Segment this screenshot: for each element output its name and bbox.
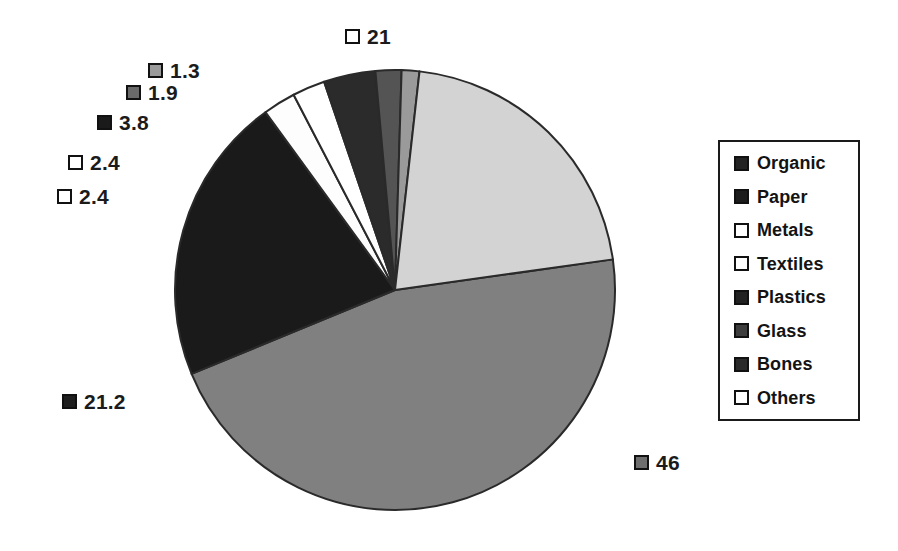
legend-item-paper[interactable]: Paper xyxy=(734,185,858,209)
data-label-glass: 1.9 xyxy=(126,82,178,103)
data-label-value: 2.4 xyxy=(79,186,109,207)
legend-item-label: Organic xyxy=(757,154,826,172)
legend-item-others[interactable]: Others xyxy=(734,386,858,410)
legend-swatch-icon xyxy=(734,189,749,204)
data-label-swatch-icon xyxy=(126,85,141,100)
data-label-bones: 1.3 xyxy=(148,60,200,81)
legend-swatch-icon xyxy=(734,156,749,171)
legend-swatch-icon xyxy=(734,357,749,372)
legend-item-label: Paper xyxy=(757,188,808,206)
data-label-swatch-icon xyxy=(57,189,72,204)
legend-item-label: Plastics xyxy=(757,288,826,306)
data-label-value: 46 xyxy=(656,452,680,473)
legend-item-label: Metals xyxy=(757,221,814,239)
legend-item-organic[interactable]: Organic xyxy=(734,151,858,175)
data-label-metals: 2.4 xyxy=(68,152,120,173)
data-label-plastics: 3.8 xyxy=(97,112,149,133)
legend-swatch-icon xyxy=(734,290,749,305)
legend-box: OrganicPaperMetalsTextilesPlasticsGlassB… xyxy=(718,140,860,421)
data-label-others: 21 xyxy=(345,26,391,47)
legend-swatch-icon xyxy=(734,256,749,271)
legend-swatch-icon xyxy=(734,390,749,405)
pie-slice-group xyxy=(175,70,615,510)
legend-item-label: Textiles xyxy=(757,255,824,273)
data-label-value: 21 xyxy=(367,26,391,47)
data-label-organic: 46 xyxy=(634,452,680,473)
legend-item-metals[interactable]: Metals xyxy=(734,218,858,242)
data-label-swatch-icon xyxy=(68,155,83,170)
data-label-swatch-icon xyxy=(148,63,163,78)
data-label-value: 3.8 xyxy=(119,112,149,133)
data-label-value: 21.2 xyxy=(84,391,126,412)
legend-item-bones[interactable]: Bones xyxy=(734,352,858,376)
legend-item-glass[interactable]: Glass xyxy=(734,319,858,343)
legend-item-label: Bones xyxy=(757,355,813,373)
legend-item-label: Glass xyxy=(757,322,807,340)
data-label-value: 1.3 xyxy=(170,60,200,81)
legend-item-plastics[interactable]: Plastics xyxy=(734,285,858,309)
data-label-value: 1.9 xyxy=(148,82,178,103)
pie-chart-figure: 211.31.93.82.42.421.246 OrganicPaperMeta… xyxy=(0,0,898,551)
data-label-swatch-icon xyxy=(97,115,112,130)
legend-swatch-icon xyxy=(734,223,749,238)
data-label-swatch-icon xyxy=(62,394,77,409)
legend-item-textiles[interactable]: Textiles xyxy=(734,252,858,276)
data-label-paper: 21.2 xyxy=(62,391,126,412)
legend-swatch-icon xyxy=(734,323,749,338)
data-label-swatch-icon xyxy=(634,455,649,470)
data-label-textiles: 2.4 xyxy=(57,186,109,207)
data-label-swatch-icon xyxy=(345,29,360,44)
pie-slice-others xyxy=(395,71,613,290)
legend-item-label: Others xyxy=(757,389,816,407)
data-label-value: 2.4 xyxy=(90,152,120,173)
